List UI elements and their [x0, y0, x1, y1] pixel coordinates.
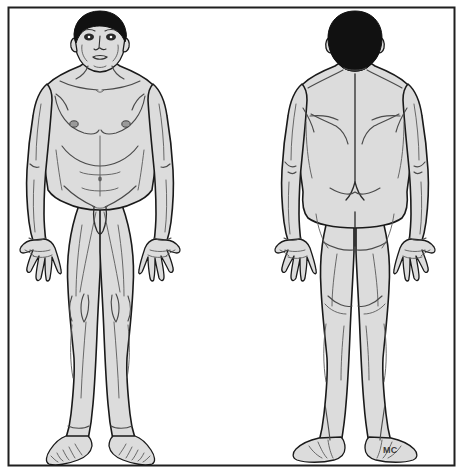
anterior-right-pupil — [110, 36, 113, 39]
anterior-navel — [98, 177, 102, 182]
body-figures-illustration: .skin { fill:#dcdcdc; stroke:#1a1a1a; st… — [0, 0, 464, 476]
anterior-right-nipple — [122, 121, 130, 127]
anatomical-illustration-page: .skin { fill:#dcdcdc; stroke:#1a1a1a; st… — [0, 0, 464, 476]
anterior-left-nipple — [70, 121, 78, 127]
posterior-hair — [328, 11, 382, 71]
anterior-left-pupil — [88, 36, 91, 39]
artist-signature: MC — [383, 445, 398, 455]
